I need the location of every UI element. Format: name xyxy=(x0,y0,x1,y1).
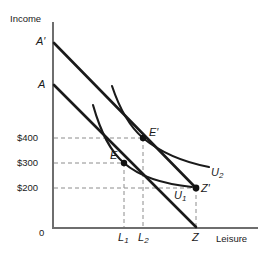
label-a-prime: A′ xyxy=(36,36,45,47)
dashed-guides-group xyxy=(54,138,196,227)
x-tick-l2-sub: 2 xyxy=(144,236,148,245)
x-axis-title: Leisure xyxy=(216,234,247,244)
x-tick-label-l1: L1 xyxy=(118,232,129,245)
label-u1-sub: 1 xyxy=(182,194,186,203)
label-a: A xyxy=(38,79,45,90)
origin-label: 0 xyxy=(39,228,44,238)
label-u2: U2 xyxy=(211,167,223,180)
label-e: E xyxy=(110,150,117,161)
x-tick-l1-sub: 1 xyxy=(124,236,128,245)
indifference-curve-u2 xyxy=(112,86,209,167)
label-z-prime: Z′ xyxy=(201,183,210,194)
label-e-prime: E′ xyxy=(149,127,158,138)
point-marker-e-prime xyxy=(140,135,146,141)
y-tick-label-200: $200 xyxy=(17,183,38,193)
label-u1-main: U xyxy=(174,189,182,201)
x-tick-label-z: Z xyxy=(192,232,199,243)
y-tick-label-400: $400 xyxy=(17,133,38,143)
budget-line-a-prime-z-prime xyxy=(54,43,196,188)
labor-leisure-indifference-chart: Income Leisure 0 $400 $300 $200 L1 L2 Z … xyxy=(0,0,264,262)
y-axis-title: Income xyxy=(10,14,41,24)
point-marker-e xyxy=(121,160,127,166)
label-u2-sub: 2 xyxy=(219,171,223,180)
point-marker-z-prime xyxy=(193,185,200,192)
label-u2-main: U xyxy=(211,166,219,178)
x-tick-label-l2: L2 xyxy=(138,232,149,245)
label-u1: U1 xyxy=(174,190,186,203)
y-tick-label-300: $300 xyxy=(17,158,38,168)
